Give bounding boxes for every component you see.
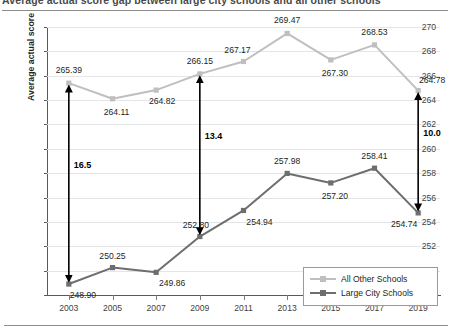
data-point-label: 254.74	[391, 219, 417, 229]
x-axis-tick-mark	[113, 295, 114, 300]
y-axis-tick-mark	[44, 295, 47, 296]
gap-label-2009: 13.4	[205, 131, 223, 141]
data-point-label: 268.53	[361, 27, 387, 37]
series-marker	[66, 281, 71, 286]
x-axis-tick-label: 2005	[103, 303, 122, 313]
series-marker	[372, 166, 377, 171]
series-marker	[154, 88, 159, 93]
data-point-label: 264.82	[149, 96, 175, 106]
data-point-label: 264.78	[419, 75, 445, 85]
data-point-label: 248.90	[70, 290, 96, 300]
x-axis-tick-mark	[287, 295, 288, 300]
data-point-label: 257.20	[322, 191, 348, 201]
series-marker	[241, 208, 246, 213]
data-point-label: 254.94	[246, 217, 272, 227]
legend-label-all-other-schools: All Other Schools	[341, 274, 407, 284]
series-marker	[110, 265, 115, 270]
data-point-label: 249.86	[159, 278, 185, 288]
legend-label-large-city-schools: Large City Schools	[341, 288, 413, 298]
x-axis-tick-mark	[244, 295, 245, 300]
data-point-label: 257.98	[274, 156, 300, 166]
series-marker	[328, 57, 333, 62]
x-axis-tick-mark	[156, 295, 157, 300]
series-marker	[110, 96, 115, 101]
x-axis-tick-label: 2007	[147, 303, 166, 313]
series-marker	[416, 88, 421, 93]
header-divider-rule	[2, 10, 448, 11]
series-marker	[241, 59, 246, 64]
data-point-label: 252.80	[183, 220, 209, 230]
series-marker	[154, 270, 159, 275]
x-axis-tick-label: 2009	[190, 303, 209, 313]
series-marker	[285, 171, 290, 176]
plot-area: Average actual score 2482502522542562582…	[47, 27, 440, 295]
footer-divider-rule	[4, 325, 448, 326]
legend-item-all-other-schools[interactable]: All Other Schools	[310, 272, 431, 286]
legend-swatch-all-other-schools	[310, 274, 336, 284]
series-marker	[285, 31, 290, 36]
x-axis-tick-label: 2003	[59, 303, 78, 313]
gap-label-2003: 16.5	[74, 160, 92, 170]
y-axis-title: Average actual score	[26, 13, 36, 101]
data-point-label: 264.11	[104, 107, 130, 117]
data-point-label: 267.17	[224, 45, 250, 55]
data-point-label: 265.39	[56, 65, 82, 75]
series-line-all-other-schools	[69, 33, 418, 98]
legend-swatch-large-city-schools	[310, 288, 336, 298]
series-marker	[197, 71, 202, 76]
chart-title-clipped: Average actual score gap between large c…	[0, 0, 452, 9]
chart-legend: All Other Schools Large City Schools	[303, 267, 438, 306]
data-point-label: 258.41	[361, 151, 387, 161]
data-point-label: 267.30	[322, 68, 348, 78]
series-marker	[197, 234, 202, 239]
series-marker	[328, 180, 333, 185]
x-axis-tick-label: 2011	[234, 303, 252, 313]
data-point-label: 266.15	[187, 56, 213, 66]
x-axis-tick-label: 2013	[278, 303, 297, 313]
series-marker	[372, 42, 377, 47]
data-point-label: 269.47	[274, 15, 300, 25]
data-point-label: 250.25	[99, 251, 125, 261]
series-marker	[416, 210, 421, 215]
series-marker	[66, 81, 71, 86]
x-axis-tick-mark	[200, 295, 201, 300]
gap-label-2019: 10.0	[423, 128, 441, 138]
chart-title-text: Average actual score gap between large c…	[0, 0, 452, 9]
legend-item-large-city-schools[interactable]: Large City Schools	[310, 286, 431, 300]
